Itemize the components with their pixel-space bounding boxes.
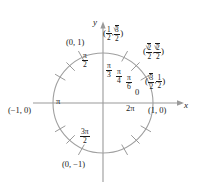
angle-two-pi-label: 2π [126, 104, 135, 113]
coord-30deg-x-radical: 3 [148, 73, 154, 82]
coord-60deg: (12,32) [103, 25, 123, 42]
angle-3pi-over-2-num: 3π [80, 128, 90, 136]
angle-pi-over-6-den: 6 [126, 82, 132, 91]
x-axis-label: x [184, 101, 188, 110]
angle-pi-over-2-num: π [82, 52, 88, 60]
angle-pi-over-2-den: 2 [82, 60, 88, 69]
coord-45deg-x-radicand: 2 [147, 43, 151, 52]
angle-pi-over-4-den: 4 [116, 76, 122, 85]
coord-45deg-x-radical: 2 [146, 43, 152, 52]
point-0-neg1: (0, −1) [62, 160, 85, 169]
angle-pi-label: π [56, 97, 60, 106]
angle-pi-over-6-num: π [126, 74, 132, 82]
angle-pi-over-3-num: π [106, 62, 112, 70]
angle-3pi-over-2-den: 2 [80, 136, 90, 145]
unit-circle-figure: y x (0, 1) (−1, 0) (0, −1) (1, 0) π 0 2π… [0, 0, 200, 191]
point-1-0: (1, 0) [148, 106, 166, 115]
coord-60deg-y-radicand: 3 [115, 25, 119, 34]
angle-3pi-over-2: 3π 2 [80, 128, 90, 144]
angle-pi-over-2: π 2 [82, 52, 88, 68]
angle-pi-over-6: π 6 [126, 74, 132, 90]
point-0-1: (0, 1) [66, 38, 84, 47]
coord-45deg-close-paren: ) [161, 46, 164, 56]
coord-30deg-close-paren: ) [162, 76, 165, 86]
coord-45deg-y-radical: 2 [154, 43, 160, 52]
unit-circle-canvas [0, 0, 200, 191]
angle-pi-over-3-den: 3 [106, 70, 112, 79]
coord-45deg-y-radicand: 2 [155, 43, 159, 52]
coord-30deg-x-radicand: 3 [149, 73, 153, 82]
coord-30deg: (32,12) [145, 73, 165, 90]
point-neg1-0: (−1, 0) [8, 106, 31, 115]
angle-pi-over-3: π 3 [106, 62, 112, 78]
coord-45deg: (22,22) [143, 43, 164, 60]
angle-pi-over-4: π 4 [116, 68, 122, 84]
coord-60deg-close-paren: ) [120, 28, 123, 38]
angle-pi-over-4-num: π [116, 68, 122, 76]
coord-60deg-y-radical: 3 [114, 25, 120, 34]
y-axis [100, 22, 105, 183]
angle-zero-label: 0 [135, 88, 139, 97]
y-axis-label: y [93, 18, 97, 27]
